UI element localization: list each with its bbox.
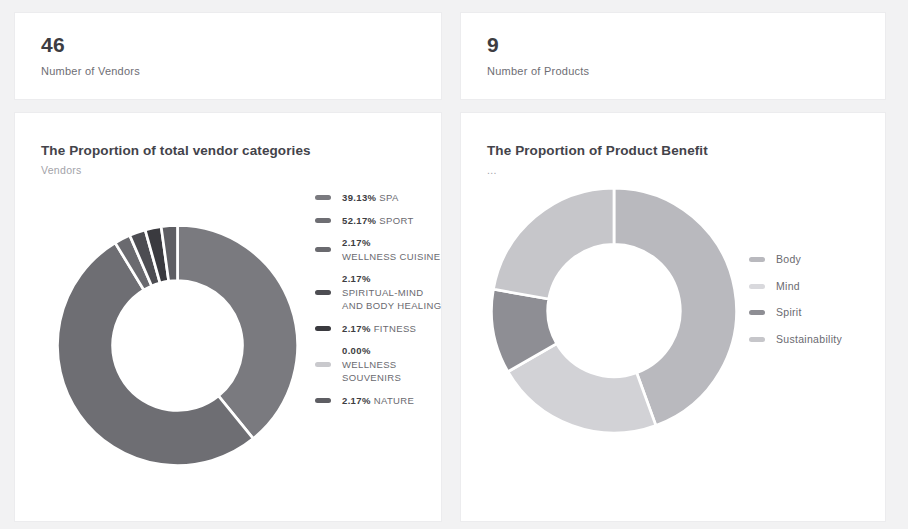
kpi-value-products: 9: [487, 33, 499, 57]
legend-label: Body: [776, 253, 801, 267]
kpi-value-vendors: 46: [41, 33, 65, 57]
chart-subtitle-product-benefit: ...: [487, 164, 497, 176]
legend-percent: 39.13%: [342, 192, 376, 203]
legend-percent: 2.17%: [342, 272, 446, 286]
chart-card-vendor-categories: The Proportion of total vendor categorie…: [14, 112, 442, 522]
legend-category-name: WELLNESS SOUVENIRS: [342, 358, 446, 385]
legend-category-name: SPIRITUAL-MIND AND BODY HEALING: [342, 286, 446, 313]
legend-item-wellness-cuisine[interactable]: 2.17%WELLNESS CUISINE: [315, 236, 455, 263]
legend-item-spirit[interactable]: Spirit: [749, 306, 889, 320]
legend-percent: 52.17%: [342, 215, 376, 226]
kpi-card-products: 9 Number of Products: [460, 12, 886, 100]
chart-title-vendor-categories: The Proportion of total vendor categorie…: [41, 143, 311, 158]
legend-item-spiritual-mind-and-body-healing[interactable]: 2.17%SPIRITUAL-MIND AND BODY HEALING: [315, 272, 455, 313]
legend-swatch-icon: [315, 218, 331, 223]
legend-item-sustainability[interactable]: Sustainability: [749, 333, 889, 347]
legend-category-name: Sustainability: [776, 333, 842, 345]
legend-percent: 2.17%: [342, 395, 371, 406]
kpi-card-vendors: 46 Number of Vendors: [14, 12, 442, 100]
legend-label: 2.17%SPIRITUAL-MIND AND BODY HEALING: [342, 272, 446, 313]
legend-item-nature[interactable]: 2.17% NATURE: [315, 394, 455, 408]
legend-swatch-icon: [749, 257, 765, 262]
legend-category-name: Mind: [776, 280, 800, 292]
legend-swatch-icon: [315, 290, 331, 295]
legend-label: Sustainability: [776, 333, 842, 347]
legend-label: 52.17% SPORT: [342, 214, 414, 228]
legend-category-name: Spirit: [776, 306, 802, 318]
donut-chart-vendor-categories[interactable]: [55, 223, 300, 468]
legend-product-benefit: BodyMindSpiritSustainability: [749, 253, 889, 359]
legend-category-name: NATURE: [374, 395, 414, 406]
legend-item-sport[interactable]: 52.17% SPORT: [315, 214, 455, 228]
legend-swatch-icon: [315, 247, 331, 252]
legend-category-name: FITNESS: [374, 323, 417, 334]
legend-category-name: SPORT: [379, 215, 413, 226]
kpi-label-vendors: Number of Vendors: [41, 65, 140, 77]
legend-label: 39.13% SPA: [342, 191, 399, 205]
legend-label: 2.17%WELLNESS CUISINE: [342, 236, 441, 263]
legend-swatch-icon: [315, 326, 331, 331]
donut-slice-spa[interactable]: [178, 225, 298, 438]
donut-chart-product-benefit[interactable]: [489, 183, 739, 438]
legend-swatch-icon: [749, 310, 765, 315]
legend-label: Mind: [776, 280, 800, 294]
legend-swatch-icon: [315, 398, 331, 403]
legend-category-name: Body: [776, 253, 801, 265]
legend-label: 2.17% FITNESS: [342, 322, 416, 336]
chart-title-product-benefit: The Proportion of Product Benefit: [487, 143, 708, 158]
legend-swatch-icon: [315, 195, 331, 200]
legend-label: 2.17% NATURE: [342, 394, 414, 408]
legend-item-wellness-souvenirs[interactable]: 0.00%WELLNESS SOUVENIRS: [315, 344, 455, 385]
legend-percent: 0.00%: [342, 344, 446, 358]
legend-swatch-icon: [749, 284, 765, 289]
legend-label: Spirit: [776, 306, 802, 320]
legend-category-name: WELLNESS CUISINE: [342, 250, 441, 264]
legend-item-spa[interactable]: 39.13% SPA: [315, 191, 455, 205]
donut-slice-sustainability[interactable]: [493, 188, 614, 299]
kpi-label-products: Number of Products: [487, 65, 589, 77]
legend-swatch-icon: [315, 362, 331, 367]
legend-item-mind[interactable]: Mind: [749, 280, 889, 294]
legend-swatch-icon: [749, 337, 765, 342]
legend-percent: 2.17%: [342, 323, 371, 334]
legend-vendor-categories: 39.13% SPA52.17% SPORT2.17%WELLNESS CUIS…: [315, 191, 455, 416]
legend-item-fitness[interactable]: 2.17% FITNESS: [315, 322, 455, 336]
dashboard-page: 46 Number of Vendors 9 Number of Product…: [0, 0, 908, 529]
legend-category-name: SPA: [379, 192, 398, 203]
legend-item-body[interactable]: Body: [749, 253, 889, 267]
chart-subtitle-vendor-categories: Vendors: [41, 164, 82, 176]
legend-label: 0.00%WELLNESS SOUVENIRS: [342, 344, 446, 385]
legend-percent: 2.17%: [342, 236, 441, 250]
chart-card-product-benefit: The Proportion of Product Benefit ... Bo…: [460, 112, 886, 522]
